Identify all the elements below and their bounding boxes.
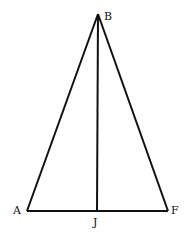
segment-BF <box>98 14 168 211</box>
label-F: F <box>171 204 179 217</box>
label-J: J <box>92 216 97 229</box>
segment-AB <box>27 14 98 211</box>
geometry-diagram: B A F J <box>0 0 187 238</box>
triangle-figure: B A F J <box>0 0 187 238</box>
label-B: B <box>104 10 112 23</box>
segment-BJ <box>97 14 98 211</box>
label-A: A <box>12 204 22 217</box>
